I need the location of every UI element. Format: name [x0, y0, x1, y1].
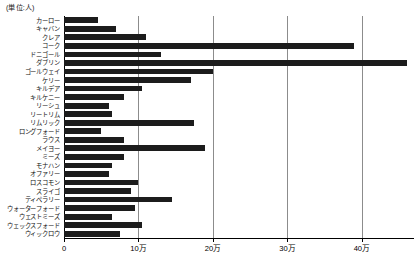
category-label: コーク — [42, 42, 60, 49]
bar — [64, 171, 109, 177]
category-axis-labels: カーローキャバンクレアコークドニゴールダブリンゴールウェイケリーキルデアキルケニ… — [0, 16, 62, 238]
category-label: ロスコモン — [30, 179, 60, 186]
bar — [64, 214, 112, 220]
bar-row — [64, 103, 414, 109]
bar-row — [64, 111, 414, 117]
bar-row — [64, 26, 414, 32]
category-label: リムリック — [30, 119, 60, 126]
bar-row — [64, 154, 414, 160]
bar — [64, 111, 112, 117]
unit-caption: (単位:人) — [6, 3, 34, 13]
bar-row — [64, 222, 414, 228]
bar-row — [64, 34, 414, 40]
tick-mark — [64, 239, 65, 242]
bar-row — [64, 86, 414, 92]
bar — [64, 145, 205, 151]
category-label: ラウス — [42, 136, 60, 143]
tick-mark — [362, 239, 363, 242]
bar-row — [64, 188, 414, 194]
bar — [64, 188, 131, 194]
bar — [64, 69, 213, 75]
bar — [64, 103, 109, 109]
category-label: キルデア — [36, 85, 60, 92]
bar — [64, 154, 124, 160]
bar — [64, 163, 112, 169]
category-label: スライゴ — [36, 188, 60, 195]
tick-mark — [213, 239, 214, 242]
category-label: ゴールウェイ — [25, 68, 60, 75]
tick-label: 40万 — [354, 243, 370, 254]
bar — [64, 120, 194, 126]
category-label: ウェストミーズ — [19, 213, 60, 220]
category-label: ウィックロウ — [25, 230, 60, 237]
category-label: ウォーターフォード — [7, 205, 60, 212]
tick-label: 30万 — [279, 243, 295, 254]
bar-row — [64, 17, 414, 23]
category-label: キャバン — [36, 25, 60, 32]
bar — [64, 52, 161, 58]
bar — [64, 137, 124, 143]
bar — [64, 128, 101, 134]
bar-row — [64, 180, 414, 186]
bar — [64, 86, 142, 92]
bar-row — [64, 145, 414, 151]
population-bar-chart: (単位:人) カーローキャバンクレアコークドニゴールダブリンゴールウェイケリーキ… — [0, 0, 419, 264]
x-axis-tick-labels: 010万20万30万40万 — [64, 243, 414, 257]
plot-area — [64, 16, 414, 238]
category-label: ロングフォード — [19, 128, 60, 135]
bar — [64, 222, 142, 228]
bars-layer — [64, 16, 414, 238]
bar — [64, 17, 98, 23]
category-label: キルケニー — [30, 94, 60, 101]
bar-row — [64, 214, 414, 220]
category-label: ミーズ — [42, 153, 60, 160]
bar — [64, 77, 191, 83]
bar — [64, 26, 116, 32]
bar-row — [64, 43, 414, 49]
category-label: メイヨー — [36, 145, 60, 152]
bar-row — [64, 205, 414, 211]
bar — [64, 205, 135, 211]
bar-row — [64, 60, 414, 66]
category-label: ケリー — [42, 77, 60, 84]
tick-label: 20万 — [205, 243, 221, 254]
bar-row — [64, 197, 414, 203]
category-label: モナハン — [36, 162, 60, 169]
bar-row — [64, 77, 414, 83]
bar-row — [64, 163, 414, 169]
tick-label: 0 — [62, 243, 66, 254]
bar — [64, 34, 146, 40]
bar — [64, 180, 138, 186]
tick-mark — [138, 239, 139, 242]
category-label: ティペラリー — [25, 196, 60, 203]
bar-row — [64, 231, 414, 237]
tick-mark — [287, 239, 288, 242]
category-label: リーシュ — [36, 102, 60, 109]
category-label: リートリム — [30, 111, 60, 118]
bar-row — [64, 128, 414, 134]
category-label: ダブリン — [36, 59, 60, 66]
bar — [64, 231, 120, 237]
tick-label: 10万 — [130, 243, 146, 254]
bar-row — [64, 69, 414, 75]
bar — [64, 197, 172, 203]
category-label: ウェックスフォード — [7, 222, 60, 229]
category-label: オファリー — [30, 170, 60, 177]
bar-row — [64, 120, 414, 126]
bar — [64, 43, 354, 49]
bar — [64, 94, 124, 100]
category-label: クレア — [42, 34, 60, 41]
bar-row — [64, 52, 414, 58]
bar-row — [64, 137, 414, 143]
bar-row — [64, 171, 414, 177]
bar — [64, 60, 407, 66]
category-label: カーロー — [36, 17, 60, 24]
category-label: ドニゴール — [30, 51, 60, 58]
bar-row — [64, 94, 414, 100]
